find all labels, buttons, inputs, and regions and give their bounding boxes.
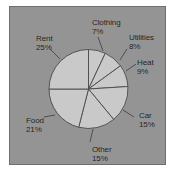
pie-label-car-value: 15% xyxy=(139,121,155,130)
pie-label-other-value: 15% xyxy=(92,155,112,164)
pie-chart-graphic xyxy=(10,7,165,164)
leader-line-utilities xyxy=(120,49,127,60)
leader-line-heat xyxy=(126,64,136,71)
leader-line-clothing xyxy=(98,37,103,51)
pie-label-rent-name: Rent xyxy=(36,34,53,43)
pie-label-car-name: Car xyxy=(139,111,152,120)
pie-label-other-name: Other xyxy=(92,145,112,154)
pie-label-heat-name: Heat xyxy=(137,58,154,67)
pie-label-rent: Rent 25% xyxy=(36,35,53,52)
pie-label-other: Other 15% xyxy=(92,146,112,163)
leader-line-food xyxy=(44,115,55,117)
pie-label-food-name: Food xyxy=(26,116,44,125)
pie-slice-group xyxy=(49,50,128,129)
pie-label-clothing-value: 7% xyxy=(92,28,121,37)
pie-label-car: Car 15% xyxy=(139,112,155,129)
pie-label-food-value: 21% xyxy=(26,126,44,135)
pie-label-rent-value: 25% xyxy=(36,44,53,53)
pie-label-utilities-value: 8% xyxy=(129,43,154,52)
pie-label-utilities: Utilities 8% xyxy=(129,34,154,51)
leader-line-car xyxy=(123,110,134,117)
leader-line-other xyxy=(90,129,93,142)
pie-label-food: Food 21% xyxy=(26,117,44,134)
pie-chart-figure: Clothing 7% Utilities 8% Heat 9% Car 15%… xyxy=(0,0,174,178)
pie-label-heat: Heat 9% xyxy=(137,59,154,76)
pie-label-clothing: Clothing 7% xyxy=(92,19,121,36)
pie-label-clothing-name: Clothing xyxy=(92,18,121,27)
chart-plot-area: Clothing 7% Utilities 8% Heat 9% Car 15%… xyxy=(9,6,166,165)
pie-label-utilities-name: Utilities xyxy=(129,33,154,42)
pie-label-heat-value: 9% xyxy=(137,68,154,77)
pie-slice-rent xyxy=(49,50,89,90)
